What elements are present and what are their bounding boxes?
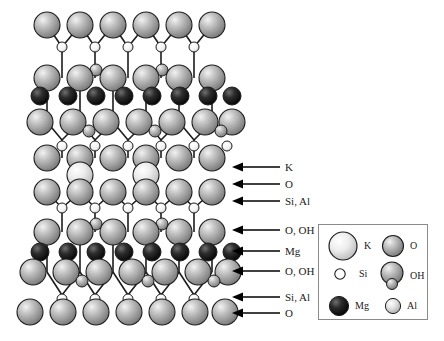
callout-o-1: O (232, 177, 293, 191)
atom-layer-o-bottom (17, 299, 238, 325)
atom-layer-o-3 (34, 179, 225, 205)
callout-o-oh-1: O, OH (232, 223, 314, 237)
callout-label: O, OH (285, 224, 314, 236)
callout-label: K (285, 161, 293, 173)
oh-sphere-icon (379, 261, 405, 291)
al-sphere-icon (384, 297, 402, 315)
legend-item-si: Si (333, 267, 367, 281)
atom-layer-mg-1 (31, 87, 241, 105)
mg-sphere-icon (328, 295, 350, 317)
crystal-structure-diagram (0, 0, 250, 341)
arrow-left-icon (232, 178, 280, 190)
callout-o-2: O (232, 306, 293, 320)
atom-layer-o-top (34, 12, 225, 38)
legend-box: K O Si (318, 224, 428, 320)
callout-label: Si, Al (285, 291, 310, 303)
atom-layer-si-top (57, 42, 199, 52)
legend-grid: K O Si (319, 225, 427, 319)
legend-label: Si (359, 269, 367, 279)
legend-item-k: K (327, 230, 371, 262)
arrow-left-icon (232, 307, 280, 319)
callout-mg: Mg (232, 244, 300, 258)
legend-label: O (410, 241, 417, 251)
legend-label: Mg (355, 301, 369, 311)
callout-label: Mg (285, 245, 300, 257)
atom-layer-mg-2 (31, 243, 241, 261)
callout-label: O, OH (285, 265, 314, 277)
callout-label: O (285, 307, 293, 319)
arrow-left-icon (232, 224, 280, 236)
callout-k: K (232, 160, 293, 174)
legend-label: K (364, 241, 371, 251)
legend-item-oh: OH (379, 261, 424, 291)
callout-si-al-2: Si, Al (232, 290, 310, 304)
callout-label: O (285, 178, 293, 190)
legend-item-al: Al (384, 297, 417, 315)
callout-o-oh-2: O, OH (232, 264, 314, 278)
legend-label: OH (410, 271, 424, 281)
legend-item-mg: Mg (328, 295, 369, 317)
arrow-left-icon (232, 265, 280, 277)
figure-root: K O Si, Al O, OH (0, 0, 444, 341)
callout-label: Si, Al (285, 195, 310, 207)
arrow-left-icon (232, 161, 280, 173)
atom-layer-o-oh-2 (27, 109, 245, 137)
arrow-left-icon (232, 195, 280, 207)
arrow-left-icon (232, 245, 280, 257)
k-sphere-icon (327, 230, 359, 262)
o-sphere-icon (381, 234, 405, 258)
si-sphere-icon (333, 267, 347, 281)
legend-label: Al (407, 301, 417, 311)
legend-item-o: O (381, 234, 417, 258)
arrow-left-icon (232, 291, 280, 303)
callout-si-al-1: Si, Al (232, 194, 310, 208)
